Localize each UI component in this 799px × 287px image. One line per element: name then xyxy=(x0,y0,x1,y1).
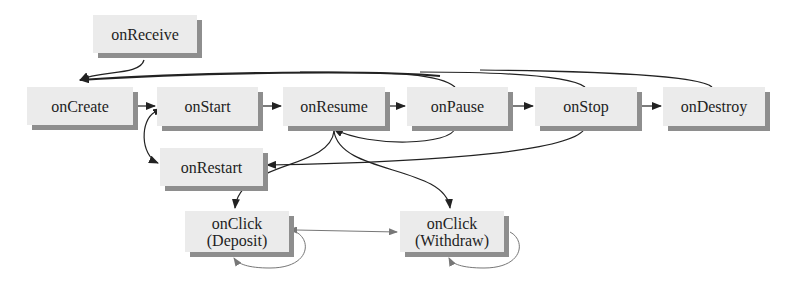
edge-onpause-onresume xyxy=(334,128,455,142)
node-label: onRestart xyxy=(181,159,242,176)
node-label-line1: onClick xyxy=(212,215,263,232)
node-onstart: onStart xyxy=(157,87,258,126)
node-onclick-withdraw: onClick (Withdraw) xyxy=(400,211,504,252)
edge-deposit-withdraw xyxy=(296,230,397,232)
node-label: onReceive xyxy=(111,26,179,43)
node-onrestart: onRestart xyxy=(160,148,263,186)
node-oncreate: onCreate xyxy=(27,87,133,125)
node-label: onStop xyxy=(563,98,608,115)
node-label: onStart xyxy=(184,98,230,115)
node-label: onResume xyxy=(300,98,368,115)
edge-onstart-onrestart xyxy=(144,112,158,163)
edge-ondestroy-oncreate xyxy=(480,70,712,87)
node-onclick-deposit: onClick (Deposit) xyxy=(185,211,289,252)
node-label: onCreate xyxy=(51,98,109,115)
edge-onresume-onwithdraw xyxy=(334,131,450,208)
node-label-line2: (Deposit) xyxy=(207,232,267,249)
node-label: onDestroy xyxy=(681,98,748,115)
edge-onstop-onrestart xyxy=(267,128,585,165)
node-label-line1: onClick xyxy=(427,215,478,232)
node-label-line2: (Withdraw) xyxy=(415,232,489,249)
node-onstop: onStop xyxy=(535,87,637,126)
node-onresume: onResume xyxy=(283,87,385,126)
node-label: onPause xyxy=(431,98,484,115)
node-onpause: onPause xyxy=(407,87,508,126)
node-onreceive: onReceive xyxy=(93,15,197,53)
lifecycle-diagram: onReceive onCreate onStart onResume onPa… xyxy=(0,0,799,287)
edge-onstop-oncreate xyxy=(420,72,585,87)
node-ondestroy: onDestroy xyxy=(663,87,765,126)
